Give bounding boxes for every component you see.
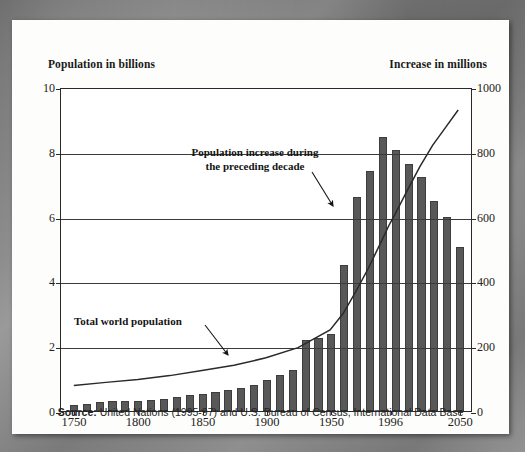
source-text: United Nations (1995-97) and U.S. Bureau… — [97, 406, 464, 418]
right-axis-tick-label: 1000 — [477, 82, 501, 94]
left-axis-tick-label: 2 — [49, 341, 55, 353]
left-axis-tick-label: 8 — [49, 147, 55, 159]
left-axis-tick-label: 6 — [49, 212, 55, 224]
right-axis-tick-label: 200 — [477, 341, 495, 353]
scanned-page-background: Population in billions Increase in milli… — [0, 0, 525, 452]
left-axis-tickmark — [56, 89, 61, 90]
left-axis-tick-label: 10 — [43, 82, 55, 94]
right-axis-tickmark — [471, 219, 476, 220]
right-axis-tick-label: 400 — [477, 276, 495, 288]
total-population-line — [61, 89, 471, 411]
left-axis-tick-label: 4 — [49, 276, 55, 288]
right-axis-tickmark — [471, 154, 476, 155]
chart-card: Population in billions Increase in milli… — [12, 20, 509, 434]
right-axis-tick-label: 800 — [477, 147, 495, 159]
left-axis-tickmark — [56, 219, 61, 220]
annotation-total-world-population: Total world population — [74, 315, 224, 329]
left-axis-tickmark — [56, 283, 61, 284]
source-label: Source: — [58, 406, 97, 418]
right-axis-tickmark — [471, 283, 476, 284]
left-axis-tickmark — [56, 154, 61, 155]
left-axis-tickmark — [56, 348, 61, 349]
right-axis-tickmark — [471, 348, 476, 349]
right-axis-tick-label: 600 — [477, 212, 495, 224]
annotation-population-increase: Population increase during the preceding… — [180, 146, 330, 174]
right-axis-tickmark — [471, 89, 476, 90]
plot-area: 0246810 02004006008001000 17501800185019… — [60, 88, 472, 412]
right-axis-title: Increase in millions — [389, 58, 487, 70]
left-axis-title: Population in billions — [48, 58, 155, 70]
source-caption: Source: United Nations (1995-97) and U.S… — [12, 406, 509, 418]
